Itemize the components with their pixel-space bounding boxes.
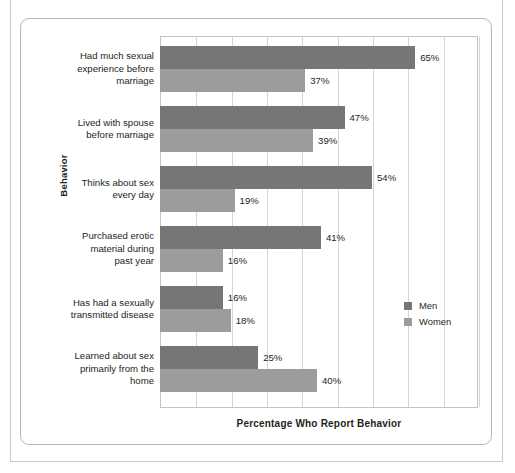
legend-item-men: Men: [404, 299, 474, 312]
bar-value-label: 18%: [236, 309, 255, 332]
legend-item-women: Women: [404, 315, 474, 328]
category-label-2: Thinks about sex every day: [40, 177, 154, 202]
bar-value-label: 54%: [377, 166, 396, 189]
bar-value-label: 16%: [228, 249, 247, 272]
bar-value-label: 40%: [322, 369, 341, 392]
bar-men-4: [160, 286, 223, 309]
bar-value-label: 25%: [263, 346, 282, 369]
bar-women-5: [160, 369, 317, 392]
x-axis-title: Percentage Who Report Behavior: [160, 418, 478, 429]
bar-value-label: 19%: [240, 189, 259, 212]
bar-men-5: [160, 346, 258, 369]
gridline: [479, 37, 480, 407]
bar-value-label: 37%: [310, 69, 329, 92]
legend: MenWomen: [404, 299, 474, 331]
bar-value-label: 41%: [326, 226, 345, 249]
bar-men-0: [160, 46, 415, 69]
category-label-4: Has had a sexually transmitted disease: [40, 297, 154, 322]
bar-women-0: [160, 69, 305, 92]
bar-men-1: [160, 106, 345, 129]
legend-swatch-men: [404, 302, 412, 310]
bar-women-3: [160, 249, 223, 272]
bar-value-label: 16%: [228, 286, 247, 309]
bar-value-label: 47%: [350, 106, 369, 129]
legend-label: Men: [419, 301, 437, 311]
bar-women-2: [160, 189, 235, 212]
bar-value-label: 39%: [318, 129, 337, 152]
bar-value-label: 65%: [420, 46, 439, 69]
category-axis-labels: Had much sexual experience before marria…: [40, 36, 154, 408]
category-label-3: Purchased erotic material during past ye…: [40, 230, 154, 267]
legend-swatch-women: [404, 318, 412, 326]
category-label-1: Lived with spouse before marriage: [40, 117, 154, 142]
bar-women-4: [160, 309, 231, 332]
bar-women-1: [160, 129, 313, 152]
category-label-5: Learned about sex primarily from the hom…: [40, 350, 154, 387]
bar-men-3: [160, 226, 321, 249]
category-label-0: Had much sexual experience before marria…: [40, 50, 154, 87]
legend-label: Women: [419, 317, 451, 327]
bar-men-2: [160, 166, 372, 189]
bars-layer: 65%37%47%39%54%19%41%16%16%18%25%40%: [160, 36, 478, 408]
